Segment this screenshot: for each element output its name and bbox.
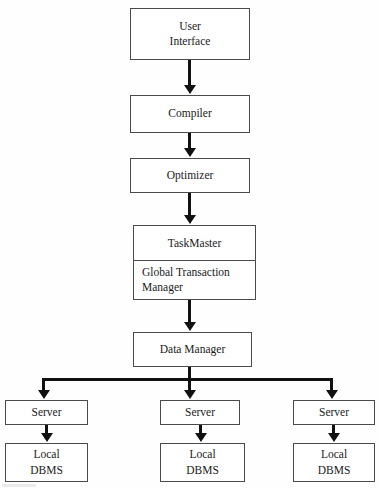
arrowhead-compiler-to-optimizer <box>184 148 196 157</box>
node-user-interface: User Interface <box>130 8 250 60</box>
node-optimizer: Optimizer <box>130 158 250 193</box>
node-local-dbms-left-line1: Local <box>33 447 59 462</box>
node-gtm-line2: Manager <box>142 280 183 295</box>
architecture-diagram: User Interface Compiler Optimizer TaskMa… <box>0 0 379 488</box>
node-user-interface-line2: Interface <box>170 34 211 49</box>
arrowhead-bus-to-server-right <box>326 390 338 399</box>
arrowhead-optimizer-to-taskmaster <box>184 215 196 224</box>
node-local-dbms-right-line1: Local <box>321 447 347 462</box>
node-compiler-label: Compiler <box>168 106 211 121</box>
arrowhead-server-right-to-dbms <box>328 433 340 442</box>
arrowhead-ui-to-compiler <box>184 85 196 94</box>
arrowhead-bus-to-server-middle <box>184 390 196 399</box>
node-local-dbms-middle: Local DBMS <box>160 443 245 482</box>
connector-optimizer-to-taskmaster <box>188 193 191 217</box>
node-server-left: Server <box>5 400 88 425</box>
node-taskmaster: TaskMaster <box>134 226 255 261</box>
arrowhead-server-left-to-dbms <box>41 433 53 442</box>
arrowhead-bus-to-server-left <box>38 390 50 399</box>
scan-artifact <box>2 484 36 487</box>
arrowhead-server-middle-to-dbms <box>195 433 207 442</box>
node-taskmaster-compound: TaskMaster Global Transaction Manager <box>133 225 256 300</box>
arrowhead-taskmaster-to-data-manager <box>184 322 196 331</box>
node-data-manager: Data Manager <box>133 332 252 367</box>
connector-taskmaster-to-data-manager <box>188 300 191 324</box>
node-server-middle: Server <box>160 400 240 425</box>
node-local-dbms-right-line2: DBMS <box>318 463 351 478</box>
node-local-dbms-middle-line2: DBMS <box>186 463 219 478</box>
node-global-transaction-manager: Global Transaction Manager <box>134 261 255 299</box>
node-user-interface-line1: User <box>179 19 201 34</box>
node-optimizer-label: Optimizer <box>167 168 214 183</box>
node-data-manager-label: Data Manager <box>160 342 225 357</box>
node-taskmaster-label: TaskMaster <box>168 237 222 249</box>
node-local-dbms-right: Local DBMS <box>293 443 375 482</box>
connector-ui-to-compiler <box>188 60 191 87</box>
node-compiler: Compiler <box>130 95 250 133</box>
node-server-left-label: Server <box>31 405 61 420</box>
node-local-dbms-left-line2: DBMS <box>30 463 63 478</box>
node-local-dbms-middle-line1: Local <box>189 447 215 462</box>
node-gtm-line1: Global Transaction <box>142 265 230 280</box>
node-server-right: Server <box>293 400 375 425</box>
node-server-right-label: Server <box>319 405 349 420</box>
node-server-middle-label: Server <box>185 405 215 420</box>
node-local-dbms-left: Local DBMS <box>5 443 88 482</box>
